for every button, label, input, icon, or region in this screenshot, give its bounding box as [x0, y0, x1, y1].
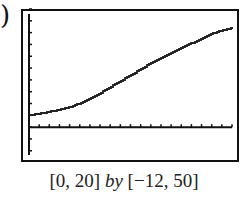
window-caption: [0, 20] by [−12, 50] — [0, 170, 248, 192]
by-text: by — [105, 170, 123, 191]
x-window: [0, 20] — [50, 170, 101, 191]
y-window: [−12, 50] — [128, 170, 199, 191]
function-curve — [29, 28, 233, 115]
graph-window — [0, 0, 248, 198]
window-frame — [22, 10, 238, 161]
